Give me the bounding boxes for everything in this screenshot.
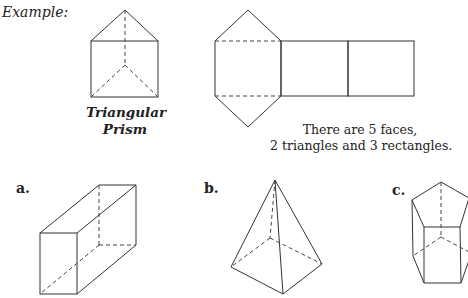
shape-name-label: Triangular Prism [86,104,164,138]
problem-a-label: a. [16,180,30,196]
rectangular-prism-figure [40,185,136,294]
description-line2: 2 triangles and 3 rectangles. [270,138,450,154]
description-line1: There are 5 faces, [270,122,450,138]
problem-b-label: b. [204,180,219,196]
shape-name-line1: Triangular [86,104,164,121]
triangular-prism-net [215,10,414,127]
square-pyramid-figure [231,180,322,294]
triangular-prism-figure [91,10,158,97]
problem-c-label: c. [392,182,405,198]
shape-name-line2: Prism [86,121,164,138]
net-description: There are 5 faces, 2 triangles and 3 rec… [270,122,450,154]
pentagonal-prism-figure [412,182,468,283]
